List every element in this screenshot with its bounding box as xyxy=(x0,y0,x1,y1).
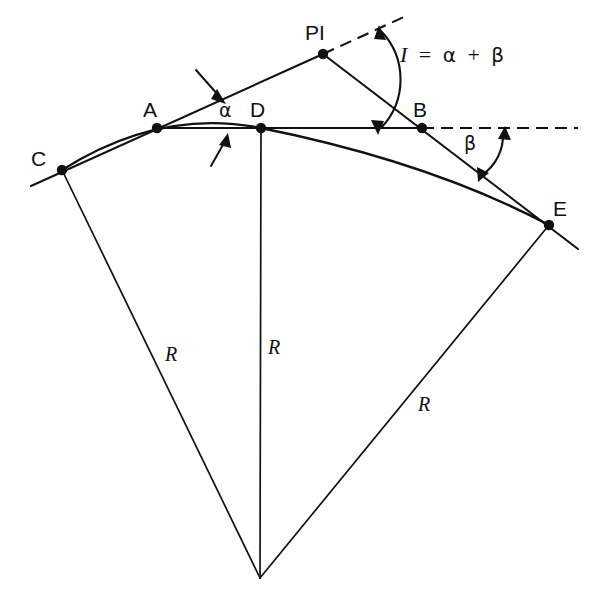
angle-arc-beta xyxy=(482,133,503,175)
radius-line-right xyxy=(260,225,549,578)
point-marker-B xyxy=(417,123,427,133)
formula-deflection-angle: I = α + β xyxy=(400,44,504,66)
point-label-B: B xyxy=(413,99,427,120)
back-tangent-line xyxy=(31,54,323,186)
point-marker-A xyxy=(152,123,162,133)
point-marker-E xyxy=(544,220,554,230)
formula-plus: + xyxy=(467,42,479,67)
point-label-A: A xyxy=(143,99,157,120)
formula-alpha: α xyxy=(443,43,456,67)
radius-label-left: R xyxy=(165,344,177,364)
curve-geometry-diagram: C A D B E PI α β R R R I = α + β xyxy=(0,0,594,598)
pointer-to-chord-arrowhead xyxy=(219,133,231,148)
diagram-canvas xyxy=(0,0,594,598)
point-marker-D xyxy=(256,123,266,133)
radius-line-middle xyxy=(260,128,261,578)
point-marker-PI xyxy=(318,49,328,59)
point-label-PI: PI xyxy=(305,22,325,43)
angle-arc-I xyxy=(381,31,401,128)
angle-arc-I-arrowhead-top xyxy=(374,25,386,40)
pointer-to-chord-shaft xyxy=(211,143,224,166)
point-label-D: D xyxy=(250,99,265,120)
point-label-E: E xyxy=(553,198,567,219)
radius-line-left xyxy=(62,170,260,578)
formula-equals: = xyxy=(419,42,431,67)
radius-label-right: R xyxy=(418,394,430,414)
formula-symbol-I: I xyxy=(400,42,407,67)
formula-beta: β xyxy=(491,43,504,67)
point-label-C: C xyxy=(31,148,46,169)
angle-label-alpha: α xyxy=(219,101,232,120)
angle-label-beta: β xyxy=(464,134,476,153)
point-marker-C xyxy=(57,165,67,175)
radius-label-center: R xyxy=(268,337,280,357)
